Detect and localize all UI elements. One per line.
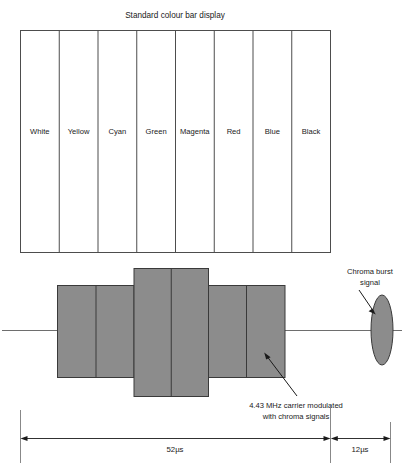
dimension-label-blanking: 12µs bbox=[351, 445, 368, 454]
chroma-burst-label-line1: Chroma burst bbox=[347, 267, 394, 276]
chroma-burst-ellipse bbox=[371, 295, 393, 365]
carrier-label-line2: with chroma signals bbox=[262, 412, 330, 421]
colour-bar-label-white: White bbox=[30, 127, 49, 136]
carrier-label-line1: 4.43 MHz carrier modulated bbox=[249, 401, 343, 410]
dimension-arrow-left-icon bbox=[21, 436, 28, 441]
colour-bar-label-red: Red bbox=[227, 127, 241, 136]
waveform-display bbox=[2, 269, 402, 397]
colour-bar-label-green: Green bbox=[146, 127, 167, 136]
colour-bar-display: White Yellow Cyan Green Magenta Red Blue… bbox=[21, 31, 331, 253]
dimension-arrow-active-right-icon bbox=[324, 436, 331, 441]
colour-bar-label-magenta: Magenta bbox=[180, 127, 210, 136]
figure-title: Standard colour bar display bbox=[125, 11, 226, 20]
dimension-arrow-right-icon bbox=[384, 436, 391, 441]
colour-bar-diagram: Standard colour bar display White Yellow… bbox=[0, 0, 414, 472]
chroma-burst-label-line2: signal bbox=[360, 278, 380, 287]
colour-bar-label-yellow: Yellow bbox=[68, 127, 90, 136]
colour-bar-label-blue: Blue bbox=[265, 127, 280, 136]
dimension-label-active: 52µs bbox=[166, 445, 183, 454]
colour-bar-label-cyan: Cyan bbox=[108, 127, 126, 136]
colour-bar-label-black: Black bbox=[302, 127, 321, 136]
dimension-arrow-blanking-left-icon bbox=[331, 436, 338, 441]
figure-canvas: Standard colour bar display White Yellow… bbox=[0, 0, 414, 472]
dimension-annotations: 52µs 12µs bbox=[21, 404, 391, 463]
chroma-burst-leader-line bbox=[359, 290, 374, 312]
